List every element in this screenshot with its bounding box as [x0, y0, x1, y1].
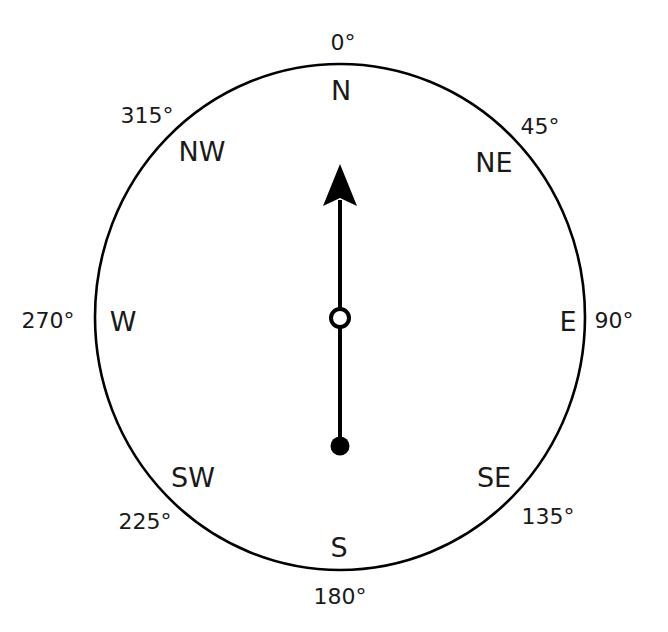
degree-label-nw: 315° [121, 103, 174, 128]
direction-label-e: E [559, 306, 576, 337]
direction-label-w: W [110, 306, 137, 337]
degree-label-n: 0° [331, 30, 356, 55]
direction-label-ne: NE [475, 147, 512, 178]
needle-tail-dot-icon [331, 437, 350, 456]
degree-label-se: 135° [522, 504, 575, 529]
degree-label-ne: 45° [521, 114, 560, 139]
needle-arrowhead-icon [323, 164, 357, 206]
compass-needle [323, 164, 357, 456]
direction-label-s: S [330, 532, 347, 563]
direction-label-n: N [331, 75, 351, 106]
degree-label-sw: 225° [119, 509, 172, 534]
direction-label-sw: SW [171, 462, 215, 493]
degree-label-e: 90° [595, 308, 634, 333]
degree-label-w: 270° [22, 308, 75, 333]
degree-label-s: 180° [314, 584, 367, 609]
compass-diagram: N 0° NE 45° E 90° SE 135° S 180° SW 225°… [0, 0, 668, 632]
direction-label-nw: NW [179, 136, 226, 167]
direction-label-se: SE [477, 462, 511, 493]
needle-pivot-icon [331, 309, 349, 327]
